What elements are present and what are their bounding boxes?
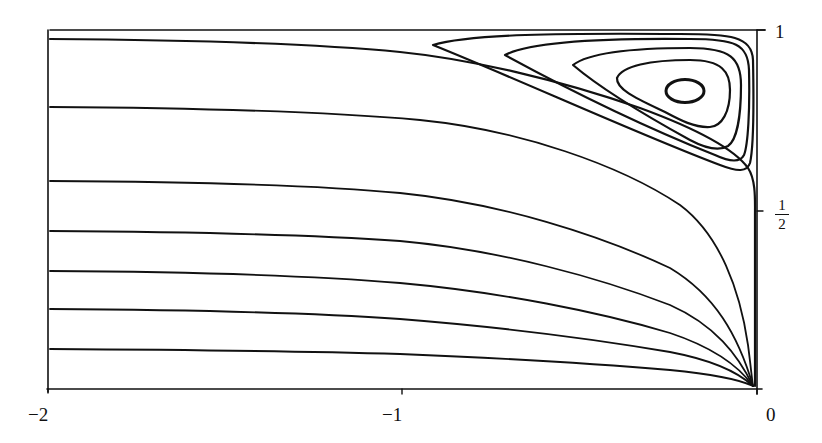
x-tick-label-minus-2: −2	[28, 405, 48, 424]
streamline-2	[50, 107, 753, 386]
x-tick-label-minus-1: −1	[382, 405, 402, 424]
streamline-4	[50, 231, 753, 386]
streamline-1	[50, 39, 755, 386]
streamline-6	[50, 309, 753, 386]
streamline-7	[50, 349, 753, 386]
eddy-loop-4	[505, 39, 749, 161]
streamline-plot	[0, 0, 822, 443]
y-tick-half-numerator: 1	[775, 198, 789, 213]
y-tick-half-denominator: 2	[775, 217, 789, 232]
y-tick-label-half: 1 2	[775, 198, 789, 232]
fraction-bar	[775, 214, 789, 215]
eddy-loop-2	[617, 60, 730, 127]
eddy-loop-1-innermost	[666, 80, 704, 103]
y-tick-label-one: 1	[775, 22, 785, 41]
x-tick-label-0: 0	[766, 405, 776, 424]
